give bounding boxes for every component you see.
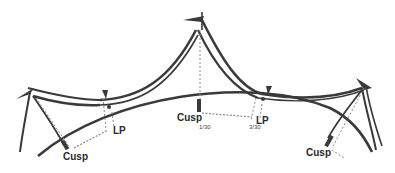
fraction-right: 3/30 [249, 124, 261, 130]
right-cusp-leg-c [328, 90, 362, 138]
cusp-label-right: Cusp [306, 148, 331, 158]
cusp-diagram: Cusp Cusp Cusp LP LP 1/30 3/30 [0, 0, 395, 173]
right-cusp-tail [332, 150, 344, 158]
lp-label-left: LP [113, 126, 126, 136]
center-cusp-marker [197, 99, 201, 112]
center-rise-outer [100, 30, 196, 100]
lp-right-dot [261, 97, 265, 101]
cusp-label-left: Cusp [63, 152, 88, 162]
lp-left-dashed-a [103, 98, 106, 130]
curves-drawing [0, 0, 395, 173]
center-fall-outer [202, 20, 262, 94]
left-cusp-leg-a [20, 92, 30, 152]
cusp-label-center: Cusp [177, 113, 202, 123]
center-rise-inner [100, 35, 198, 105]
left-cusp-dashed [36, 98, 70, 148]
lp-left-to-cusp [74, 130, 108, 148]
lp-left-dot [107, 105, 111, 109]
left-tip-arrowhead [16, 88, 34, 99]
top-tip-arrowhead [183, 16, 204, 22]
fraction-center: 1/30 [199, 124, 211, 130]
lp-left-arrowhead [102, 90, 108, 99]
center-to-lp-right [202, 113, 252, 117]
